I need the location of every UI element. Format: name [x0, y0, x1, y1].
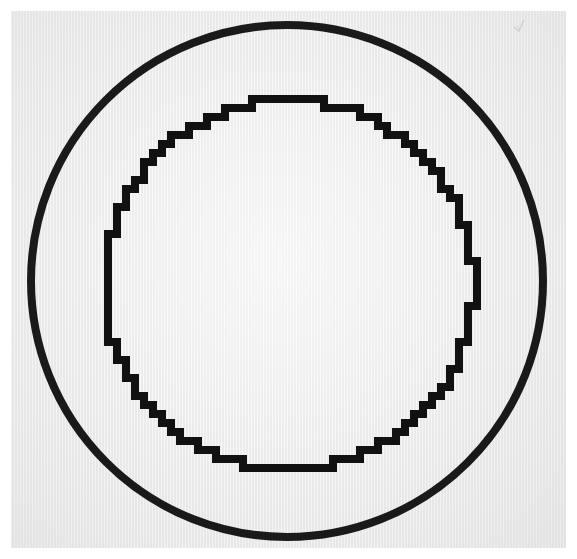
concentric-circles-drawing [0, 0, 577, 559]
pencil-scratch-artifact [514, 20, 524, 31]
scanned-figure: Two concentric circles A scanned graysca… [0, 0, 577, 559]
inner-circle [108, 99, 477, 468]
